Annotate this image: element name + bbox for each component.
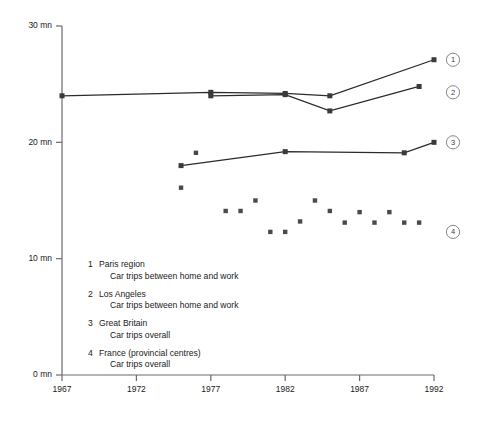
legend-item-1-number: 1 xyxy=(88,259,99,271)
series-3-marker xyxy=(402,150,407,155)
series-3-marker xyxy=(432,140,437,145)
callout-2-label: 2 xyxy=(451,88,455,97)
series-4-marker xyxy=(298,219,302,223)
legend-item-3-number: 3 xyxy=(88,318,99,330)
series-4-marker xyxy=(343,220,347,224)
y-tick-group: 0 mn10 mn20 mn30 mn xyxy=(28,20,62,379)
callout-4-label: 4 xyxy=(451,227,455,236)
series-3-marker xyxy=(283,149,288,154)
series-4-marker xyxy=(372,220,376,224)
series-4-marker xyxy=(402,220,406,224)
callout-2: 2 xyxy=(446,86,459,99)
series-2 xyxy=(208,84,421,113)
series-4-marker xyxy=(238,209,242,213)
series-1-line xyxy=(62,60,434,96)
legend-item-4-name: France (provincial centres) xyxy=(99,348,201,358)
series-4-marker xyxy=(268,230,272,234)
x-tick-label: 1972 xyxy=(127,384,146,394)
callout-4: 4 xyxy=(446,225,459,238)
legend-item-1-name: Paris region xyxy=(99,259,145,269)
series-2-marker xyxy=(208,93,213,98)
series-4-marker xyxy=(253,198,257,202)
legend-item-2-title: 2Los Angeles xyxy=(88,289,318,301)
series-1-marker xyxy=(432,57,437,62)
series-4-marker xyxy=(223,209,227,213)
series-3-line xyxy=(181,142,434,165)
callout-1: 1 xyxy=(446,53,459,66)
legend-item-2-number: 2 xyxy=(88,289,99,301)
callout-1-label: 1 xyxy=(451,55,455,64)
callout-layer: 1234 xyxy=(446,53,459,238)
series-4-marker xyxy=(283,230,287,234)
y-tick-label: 30 mn xyxy=(28,20,52,30)
series-3 xyxy=(179,140,437,168)
y-tick-label: 10 mn xyxy=(28,253,52,263)
series-4-marker xyxy=(313,198,317,202)
legend-item-1-title: 1Paris region xyxy=(88,259,318,271)
y-axis: 0 mn10 mn20 mn30 mn xyxy=(28,20,62,379)
series-3-marker xyxy=(179,163,184,168)
series-4-marker xyxy=(328,209,332,213)
series-2-marker xyxy=(327,108,332,113)
chart-legend: 1Paris region Car trips between home and… xyxy=(88,259,318,377)
callout-3: 3 xyxy=(446,136,459,149)
series-1-marker xyxy=(60,93,65,98)
series-2-marker xyxy=(283,92,288,97)
legend-item-2-detail: Car trips between home and work xyxy=(88,300,318,312)
legend-item-1-detail: Car trips between home and work xyxy=(88,271,318,283)
y-tick-label: 0 mn xyxy=(33,369,52,379)
legend-item-3-name: Great Britain xyxy=(99,318,147,328)
legend-item-2: 2Los Angeles Car trips between home and … xyxy=(88,289,318,312)
series-4-marker xyxy=(417,220,421,224)
series-4-marker xyxy=(194,151,198,155)
x-tick-label: 1977 xyxy=(201,384,220,394)
series-4 xyxy=(179,151,421,235)
series-4-marker xyxy=(357,210,361,214)
series-1-marker xyxy=(327,93,332,98)
x-tick-group: 196719721977198219871992 xyxy=(53,375,444,394)
series-layer xyxy=(60,57,437,234)
legend-item-3-detail: Car trips overall xyxy=(88,330,318,342)
x-tick-label: 1987 xyxy=(350,384,369,394)
series-2-marker xyxy=(417,84,422,89)
chart-container: 0 mn10 mn20 mn30 mn 19671972197719821987… xyxy=(0,0,479,421)
legend-item-3-title: 3Great Britain xyxy=(88,318,318,330)
legend-item-2-name: Los Angeles xyxy=(99,289,146,299)
legend-item-1: 1Paris region Car trips between home and… xyxy=(88,259,318,282)
legend-item-4-title: 4France (provincial centres) xyxy=(88,348,318,360)
series-4-marker xyxy=(387,210,391,214)
legend-item-3: 3Great Britain Car trips overall xyxy=(88,318,318,341)
legend-item-4: 4France (provincial centres) Car trips o… xyxy=(88,348,318,371)
series-2-line xyxy=(211,86,419,110)
y-tick-label: 20 mn xyxy=(28,137,52,147)
x-axis: 196719721977198219871992 xyxy=(53,375,444,394)
series-4-marker xyxy=(179,186,183,190)
x-tick-label: 1982 xyxy=(276,384,295,394)
x-tick-label: 1992 xyxy=(425,384,444,394)
legend-item-4-detail: Car trips overall xyxy=(88,359,318,371)
x-tick-label: 1967 xyxy=(53,384,72,394)
series-1 xyxy=(60,57,437,98)
callout-3-label: 3 xyxy=(451,138,455,147)
legend-item-4-number: 4 xyxy=(88,348,99,360)
